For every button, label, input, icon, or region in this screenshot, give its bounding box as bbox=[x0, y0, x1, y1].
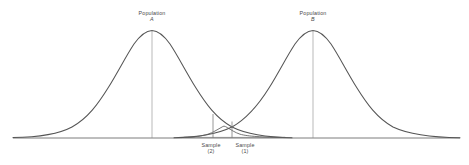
statistics-figure: Population A Population B Sample (2) Sam… bbox=[0, 0, 469, 165]
population-b-curve bbox=[174, 30, 460, 137]
population-a-curve bbox=[13, 30, 292, 137]
distribution-plot bbox=[0, 0, 469, 165]
